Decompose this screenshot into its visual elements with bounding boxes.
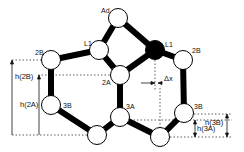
structure-diagram: Ad L1 L1 2B 2B 2A 3B 3A 3B h(2B) h(2A) h… — [0, 0, 244, 152]
node-ad — [109, 9, 128, 28]
label-3b-left: 3B — [63, 102, 72, 109]
label-l1-left: L1 — [84, 40, 92, 47]
node-3a — [111, 108, 130, 127]
node-2b-right — [174, 51, 193, 70]
node-3b-left — [42, 96, 61, 115]
h3b-arrowhead-bottom — [226, 133, 229, 137]
node-2b-left — [42, 51, 61, 70]
label-2b-left: 2B — [35, 49, 44, 56]
node-3b-right — [175, 104, 194, 123]
label-h2b: h(2B) — [15, 72, 34, 81]
h3b-arrowhead-top — [226, 114, 229, 118]
label-l1-right: L1 — [165, 41, 173, 48]
node-bottom-right — [151, 128, 170, 147]
label-2a: 2A — [102, 79, 111, 86]
label-3b-right: 3B — [194, 103, 203, 110]
node-2a — [111, 66, 130, 85]
label-2b-right: 2B — [192, 47, 201, 54]
label-ad: Ad — [101, 7, 110, 14]
label-3a: 3A — [126, 103, 135, 110]
node-bottom-left — [88, 126, 107, 145]
dx-arrowhead-left — [158, 82, 162, 85]
node-l1-left — [90, 41, 109, 60]
h3a-arrowhead-bottom — [194, 133, 197, 137]
h2b-arrowhead — [11, 60, 14, 64]
label-dx: Δx — [164, 74, 173, 83]
h2a-arrowhead — [38, 75, 41, 79]
label-h2a: h(2A) — [20, 100, 39, 109]
label-h3a: h(3A) — [197, 124, 216, 133]
dx-arrowhead-right — [151, 82, 155, 85]
node-l1-right-dark — [146, 41, 165, 60]
